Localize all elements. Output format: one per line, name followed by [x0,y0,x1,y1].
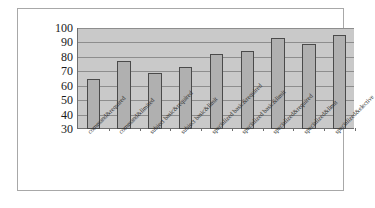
bar [271,38,285,129]
y-axis-tick-label: 70 [61,65,73,77]
plot-area [77,28,354,129]
gridline [78,28,354,29]
chart-frame: 10090807060504030 command&requiredcomman… [17,8,344,191]
y-axis-tick-label: 50 [61,94,73,106]
y-axis-tick-label: 100 [55,22,73,34]
y-axis-tick-label: 60 [61,80,73,92]
x-axis-labels: command&requiredcommand&limitedsubject b… [77,130,367,200]
bar [333,35,347,129]
bar [302,44,316,129]
y-axis-tick-label: 40 [61,109,73,121]
y-axis-tick-label: 80 [61,51,73,63]
y-axis: 10090807060504030 [37,28,73,128]
y-axis-tick-label: 30 [61,123,73,135]
y-axis-tick-label: 90 [61,36,73,48]
